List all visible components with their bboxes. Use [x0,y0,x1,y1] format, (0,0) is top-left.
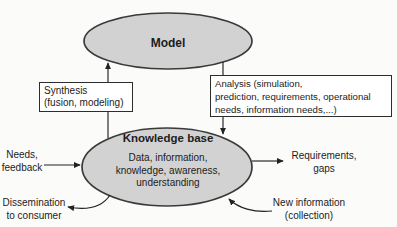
knowledge-base-contents: Data, information, knowledge, awareness,… [92,152,244,190]
diagram: Model Knowledge base Data, information, … [0,0,397,227]
knowledge-base-title: Knowledge base [103,132,233,144]
needs-feedback-label: Needs, feedback [0,149,44,174]
dissemination-arrow [68,195,110,208]
dissemination-label: Dissemination to consumer [1,197,67,222]
new-information-label: New information (collection) [264,197,354,222]
synthesis-box: Synthesis (fusion, modeling) [39,82,133,112]
analysis-box: Analysis (simulation, prediction, requir… [210,75,392,117]
model-label: Model [118,36,218,50]
requirements-gaps-label: Requirements, gaps [285,150,363,175]
